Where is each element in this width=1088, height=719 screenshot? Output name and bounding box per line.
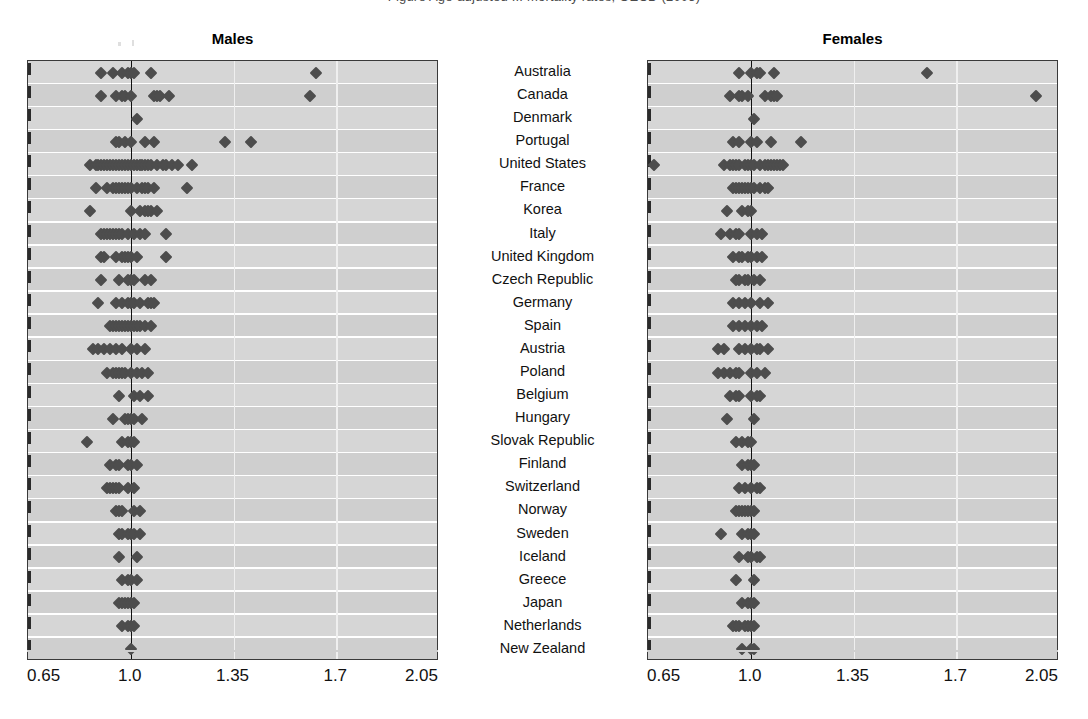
country-label: Japan (443, 591, 642, 614)
row-tick-mark (27, 155, 31, 167)
row-tick-mark (647, 594, 651, 606)
row-tick-mark (647, 432, 651, 444)
row-band (28, 292, 437, 315)
row-band (648, 315, 1057, 338)
country-label: Spain (443, 314, 642, 337)
row-tick-mark (647, 409, 651, 421)
country-label: Poland (443, 360, 642, 383)
row-tick-mark (647, 294, 651, 306)
grid-line (336, 61, 338, 659)
row-band (28, 361, 437, 384)
row-tick-mark (647, 271, 651, 283)
cropped-header-text: Figure Age-adjusted ... mortality rates,… (0, 0, 1088, 11)
row-band (648, 107, 1057, 130)
row-band (648, 361, 1057, 384)
row-band (648, 476, 1057, 499)
row-tick-mark (647, 501, 651, 513)
axis-tick-label: 0.65 (27, 666, 60, 686)
row-tick-mark (647, 525, 651, 537)
country-label: Australia (443, 60, 642, 83)
row-band (648, 176, 1057, 199)
row-tick-mark (27, 225, 31, 237)
axis-tick-label: 0.65 (647, 666, 680, 686)
country-label: Korea (443, 198, 642, 221)
row-tick-mark (27, 571, 31, 583)
row-tick-mark (647, 340, 651, 352)
row-band (648, 246, 1057, 269)
country-label: United Kingdom (443, 245, 642, 268)
row-tick-mark (27, 617, 31, 629)
axis-tick-label: 1.7 (323, 666, 347, 686)
row-band (648, 292, 1057, 315)
row-tick-mark (647, 455, 651, 467)
axis-tick-label: 1.7 (943, 666, 967, 686)
row-tick-mark (647, 132, 651, 144)
row-tick-mark (27, 409, 31, 421)
row-band (648, 223, 1057, 246)
axis-tick-label: 1.35 (836, 666, 869, 686)
country-label: Switzerland (443, 475, 642, 498)
row-tick-mark (647, 317, 651, 329)
country-label: Denmark (443, 106, 642, 129)
country-label: Hungary (443, 406, 642, 429)
grid-line (956, 61, 958, 659)
reference-line-1.0 (131, 61, 133, 659)
row-band (648, 84, 1057, 107)
grid-line (234, 61, 236, 659)
row-tick-mark (27, 86, 31, 98)
row-tick-mark (647, 201, 651, 213)
axis-tick-label: 1.0 (118, 666, 142, 686)
row-tick-mark (27, 271, 31, 283)
row-band (28, 384, 437, 407)
country-label: Germany (443, 291, 642, 314)
row-band (28, 407, 437, 430)
row-tick-mark (27, 317, 31, 329)
row-band (28, 61, 437, 84)
country-label: Iceland (443, 545, 642, 568)
row-tick-mark (27, 132, 31, 144)
row-tick-mark (647, 363, 651, 375)
row-band (28, 246, 437, 269)
row-band (28, 569, 437, 592)
country-label: United States (443, 152, 642, 175)
row-band (648, 199, 1057, 222)
row-band (28, 315, 437, 338)
hairline (647, 650, 1058, 652)
bottom-hairlines (0, 648, 1088, 654)
row-band (28, 223, 437, 246)
row-band (648, 407, 1057, 430)
row-tick-mark (27, 248, 31, 260)
country-label: Austria (443, 337, 642, 360)
row-tick-mark (647, 548, 651, 560)
row-tick-mark (27, 340, 31, 352)
row-band (648, 338, 1057, 361)
country-label: Greece (443, 568, 642, 591)
row-tick-mark (647, 386, 651, 398)
country-label: Canada (443, 83, 642, 106)
row-band (648, 130, 1057, 153)
row-band (28, 269, 437, 292)
row-band (648, 453, 1057, 476)
row-tick-mark (27, 63, 31, 75)
row-tick-mark (27, 525, 31, 537)
row-tick-mark (647, 248, 651, 260)
row-tick-mark (27, 432, 31, 444)
country-label-column: AustraliaCanadaDenmarkPortugalUnited Sta… (443, 60, 642, 660)
row-band (28, 130, 437, 153)
country-label: Norway (443, 498, 642, 521)
row-tick-mark (647, 617, 651, 629)
row-band (28, 476, 437, 499)
row-band (28, 592, 437, 615)
row-tick-mark (27, 478, 31, 490)
row-band (648, 499, 1057, 522)
row-tick-mark (27, 455, 31, 467)
figure-page: Figure Age-adjusted ... mortality rates,… (0, 0, 1088, 719)
row-band (28, 84, 437, 107)
country-label: France (443, 175, 642, 198)
country-label: Czech Republic (443, 268, 642, 291)
plot-panel-females (647, 60, 1058, 660)
hairline (27, 650, 438, 652)
country-label: Portugal (443, 129, 642, 152)
row-band (28, 499, 437, 522)
axis-tick-label: 1.0 (738, 666, 762, 686)
